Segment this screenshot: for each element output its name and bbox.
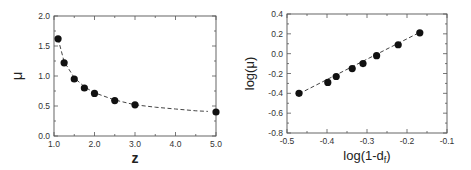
figure: 1.02.03.04.05.00.00.51.01.52.0μz -0.5-0.… [0, 0, 471, 170]
data-point [395, 41, 402, 48]
data-point [359, 60, 366, 67]
fit-line [299, 32, 420, 94]
x-tick-label: 3.0 [129, 139, 141, 149]
x-tick-label: -0.1 [440, 136, 455, 146]
data-point [295, 90, 302, 97]
x-tick-label: -0.3 [360, 136, 375, 146]
y-axis-title: log(μ) [242, 57, 257, 91]
data-point [71, 75, 78, 82]
x-tick-label: -0.2 [400, 136, 415, 146]
y-tick-label: 1.5 [38, 41, 50, 51]
y-tick-label: -0.2 [268, 69, 283, 79]
y-tick-label: 0.4 [271, 9, 283, 19]
y-tick-label: 0.0 [38, 131, 50, 141]
data-point [333, 73, 340, 80]
y-tick-label: -0.6 [268, 108, 283, 118]
data-point [81, 84, 88, 91]
y-tick-label: 2.0 [38, 11, 50, 21]
data-point [324, 79, 331, 86]
x-tick-label: 2.0 [89, 139, 101, 149]
y-tick-label: 0.2 [271, 29, 283, 39]
x-tick-label: 4.0 [170, 139, 182, 149]
x-axis-title: z [132, 150, 139, 166]
fit-line [58, 39, 208, 112]
x-tick-label: 5.0 [210, 139, 222, 149]
y-tick-label: 0.0 [271, 49, 283, 59]
data-point [212, 108, 219, 115]
mu-vs-z-chart: 1.02.03.04.05.00.00.51.01.52.0μz [8, 11, 222, 166]
data-point [349, 65, 356, 72]
y-tick-label: 1.0 [38, 71, 50, 81]
data-point [54, 35, 61, 42]
x-axis-title: log(1-df) [343, 148, 390, 165]
data-point [91, 90, 98, 97]
plot-frame [54, 16, 216, 136]
y-tick-label: 0.5 [38, 101, 50, 111]
y-tick-label: -0.8 [268, 128, 283, 138]
data-point [61, 59, 68, 66]
data-point [111, 97, 118, 104]
data-point [131, 101, 138, 108]
log-mu-vs-log-df-chart: -0.5-0.4-0.3-0.2-0.1-0.8-0.6-0.4-0.20.00… [242, 9, 455, 165]
data-point [416, 29, 423, 36]
data-point [373, 52, 380, 59]
x-tick-label: -0.4 [320, 136, 335, 146]
y-tick-label: -0.4 [268, 88, 283, 98]
y-axis-title: μ [8, 72, 25, 81]
